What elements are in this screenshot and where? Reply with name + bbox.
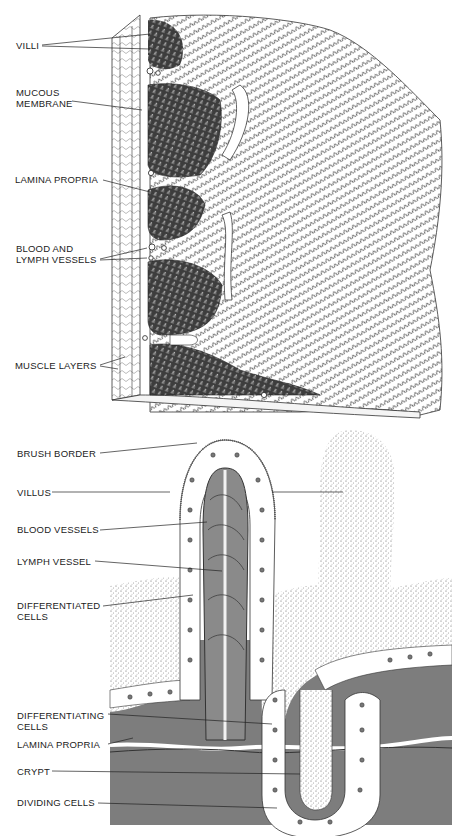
top-figure [42, 15, 442, 418]
label-dividing-cells: DIVIDING CELLS [17, 797, 95, 808]
label-crypt: CRYPT [17, 766, 50, 777]
label-lamina-propria-2: LAMINA PROPRIA [17, 739, 100, 750]
label-differentiated-cells: DIFFERENTIATED CELLS [17, 600, 100, 622]
label-villus: VILLUS [17, 487, 51, 498]
label-brush-border: BRUSH BORDER [17, 448, 96, 459]
label-lymph-vessel: LYMPH VESSEL [17, 556, 91, 567]
label-muscle-layers: MUSCLE LAYERS [15, 360, 97, 371]
label-lamina-propria: LAMINA PROPRIA [15, 174, 98, 185]
label-differentiating-cells: DIFFERENTIATING CELLS [17, 710, 104, 732]
label-mucous-membrane: MUCOUS MEMBRANE [16, 87, 73, 109]
bottom-figure [52, 430, 452, 836]
label-blood-vessels: BLOOD VESSELS [17, 524, 99, 535]
label-blood-lymph-vessels: BLOOD AND LYMPH VESSELS [16, 243, 97, 265]
label-villi: VILLI [16, 40, 39, 51]
